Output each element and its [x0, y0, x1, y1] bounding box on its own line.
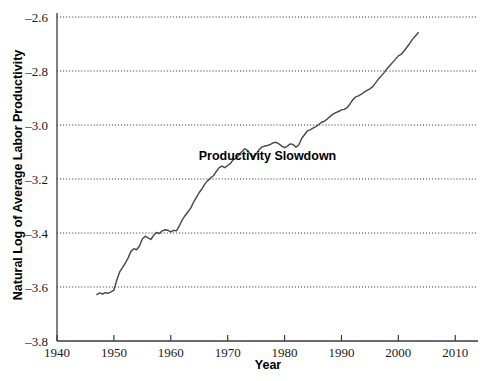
line-chart: –2.6–2.8–3.0–3.2–3.4–3.6–3.8 19401950196… [0, 0, 489, 381]
y-tick-label: –3.4 [24, 226, 48, 241]
x-axis-ticks [57, 335, 455, 341]
data-line [97, 33, 418, 295]
chart-figure: –2.6–2.8–3.0–3.2–3.4–3.6–3.8 19401950196… [0, 0, 489, 381]
y-tick-label: –3.2 [24, 172, 48, 187]
x-tick-label: 1970 [215, 345, 241, 360]
annotation-text: Productivity Slowdown [199, 149, 337, 163]
x-tick-label: 1990 [328, 345, 354, 360]
data-series [97, 33, 418, 295]
x-tick-label: 1950 [101, 345, 127, 360]
y-tick-label: –3.6 [24, 280, 48, 295]
axes [57, 13, 478, 341]
y-axis-tick-labels: –2.6–2.8–3.0–3.2–3.4–3.6–3.8 [24, 10, 48, 349]
x-tick-label: 2000 [385, 345, 411, 360]
y-tick-label: –2.6 [24, 10, 48, 25]
y-axis-title: Natural Log of Average Labor Productivit… [11, 50, 25, 301]
y-tick-label: –2.8 [24, 64, 48, 79]
y-tick-label: –3.0 [24, 118, 48, 133]
x-tick-label: 1940 [44, 345, 70, 360]
chart-annotations: Productivity Slowdown [199, 149, 337, 163]
x-tick-label: 2010 [442, 345, 468, 360]
x-axis-title: Year [255, 358, 282, 372]
x-tick-label: 1960 [158, 345, 184, 360]
